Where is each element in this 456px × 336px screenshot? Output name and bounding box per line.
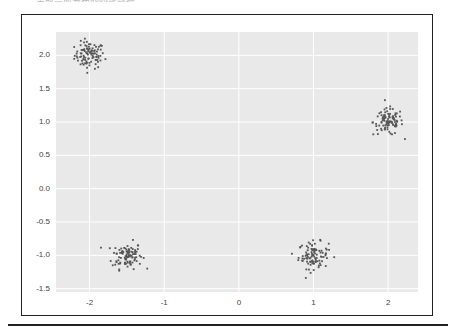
x-tick-label: 0: [229, 298, 249, 307]
y-tick-label: 1.5: [20, 84, 50, 93]
cluster-4: [372, 99, 406, 140]
plot-area: [56, 32, 418, 292]
x-tick-label: 1: [304, 298, 324, 307]
y-tick-label: -1.5: [20, 284, 50, 293]
x-tick-label: -2: [80, 298, 100, 307]
horizontal-rule: [8, 324, 448, 326]
scatter-plot: [56, 32, 418, 292]
x-tick-label: 2: [378, 298, 398, 307]
y-tick-label: -1.0: [20, 250, 50, 259]
y-tick-label: -0.5: [20, 217, 50, 226]
cut-off-caption: 生成高斯分布的四簇数据: [36, 0, 176, 2]
x-tick-label: -1: [154, 298, 174, 307]
y-tick-label: 1.0: [20, 117, 50, 126]
y-tick-label: 2.0: [20, 50, 50, 59]
y-tick-label: 0.0: [20, 184, 50, 193]
y-tick-label: 0.5: [20, 150, 50, 159]
